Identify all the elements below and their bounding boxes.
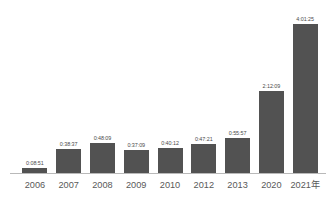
bar-group-2020[interactable]: 2:12:09 (254, 10, 288, 173)
x-axis-tick-2008: 2008 (86, 178, 120, 194)
bar-rect[interactable] (124, 150, 149, 173)
bar-chart: 0:08:51 0:38:37 0:48:09 0:37:09 0:40:12 (0, 0, 334, 206)
bar-value-label: 2:12:09 (263, 84, 281, 89)
bar-rect[interactable] (191, 144, 216, 173)
bar-group-2012[interactable]: 0:47:21 (187, 10, 221, 173)
bar-value-label: 0:37:09 (127, 143, 145, 148)
bar-group-2010[interactable]: 0:40:12 (153, 10, 187, 173)
x-axis-tick-2010: 2010 (153, 178, 187, 194)
x-axis-line (10, 173, 326, 174)
x-axis-tick-2013: 2013 (221, 178, 255, 194)
x-axis-labels: 2006 2007 2008 2009 2010 2012 2013 2020 … (18, 178, 322, 194)
bar-group-2007[interactable]: 0:38:37 (52, 10, 86, 173)
bar-rect[interactable] (293, 24, 318, 173)
bar-rect[interactable] (259, 91, 284, 173)
bar-group-2008[interactable]: 0:48:09 (86, 10, 120, 173)
bar-group-2009[interactable]: 0:37:09 (119, 10, 153, 173)
bar-group-2013[interactable]: 0:55:57 (221, 10, 255, 173)
bar-value-label: 4:01:25 (296, 17, 314, 22)
plot-area: 0:08:51 0:38:37 0:48:09 0:37:09 0:40:12 (18, 10, 322, 173)
bar-group-2006[interactable]: 0:08:51 (18, 10, 52, 173)
x-axis-tick-2020: 2020 (254, 178, 288, 194)
bar-value-label: 0:40:12 (161, 141, 179, 146)
bar-rect[interactable] (56, 149, 81, 173)
bar-group-2021[interactable]: 4:01:25 (288, 10, 322, 173)
x-axis-tick-2012: 2012 (187, 178, 221, 194)
x-axis-tick-2021: 2021年 (288, 178, 322, 194)
bar-value-label: 0:55:57 (229, 131, 247, 136)
bar-rect[interactable] (225, 138, 250, 173)
bar-rect[interactable] (90, 143, 115, 173)
x-axis-tick-2006: 2006 (18, 178, 52, 194)
bar-value-label: 0:08:51 (26, 161, 44, 166)
bar-value-label: 0:47:21 (195, 137, 213, 142)
bar-rect[interactable] (158, 148, 183, 173)
x-axis-tick-2007: 2007 (52, 178, 86, 194)
bars-layer: 0:08:51 0:38:37 0:48:09 0:37:09 0:40:12 (18, 10, 322, 173)
x-axis-tick-2009: 2009 (119, 178, 153, 194)
bar-value-label: 0:38:37 (60, 142, 78, 147)
bar-value-label: 0:48:09 (94, 136, 112, 141)
